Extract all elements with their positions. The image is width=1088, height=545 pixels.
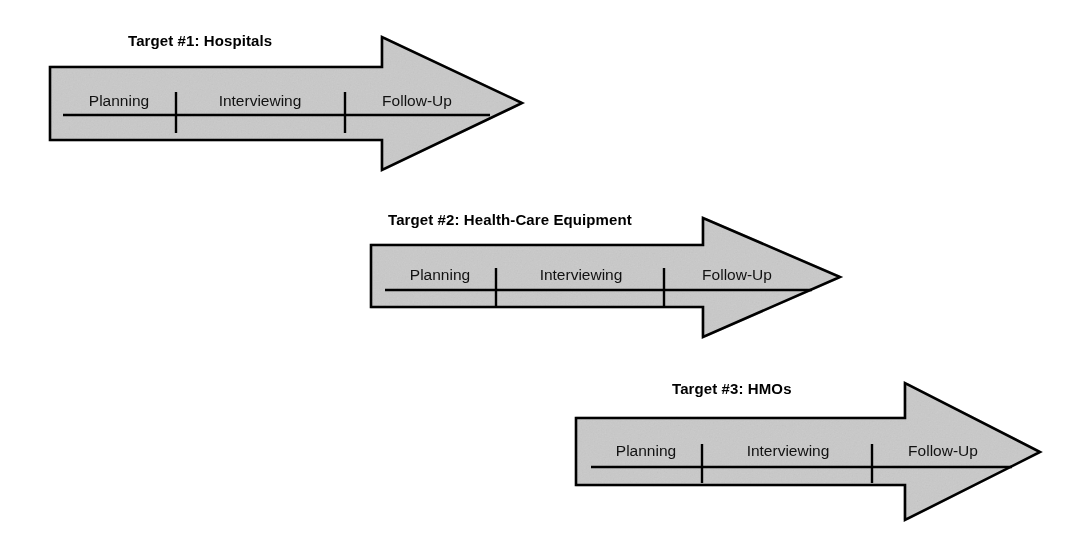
arrow-3 xyxy=(576,383,1040,520)
diagram-canvas: Target #1: HospitalsTarget #2: Health-Ca… xyxy=(0,0,1088,545)
arrow-shape xyxy=(371,218,840,337)
arrow-shape xyxy=(576,383,1040,520)
arrow-1 xyxy=(50,37,522,170)
arrow-shapes-layer xyxy=(0,0,1088,545)
arrow-2 xyxy=(371,218,840,337)
arrow-shape xyxy=(50,37,522,170)
